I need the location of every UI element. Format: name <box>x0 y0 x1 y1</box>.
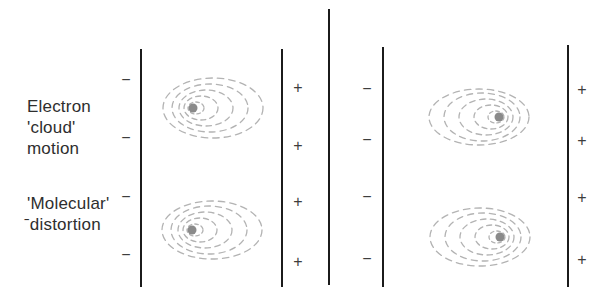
cloud-ring <box>178 212 232 248</box>
cloud-ring <box>459 99 513 135</box>
nucleus-dot <box>188 226 197 235</box>
clouds-overlay <box>0 0 610 301</box>
electron-cloud-top-right <box>429 89 529 145</box>
cloud-ring <box>460 219 514 255</box>
nucleus-dot <box>495 113 504 122</box>
electron-cloud-bottom-left <box>162 201 262 259</box>
nucleus-dot <box>496 233 505 242</box>
diagram-canvas: Electron 'cloud' motion 'Molecular' ˉdis… <box>0 0 610 301</box>
electron-cloud-bottom-right <box>430 208 530 266</box>
cloud-ring <box>179 90 233 126</box>
nucleus-dot <box>189 104 198 113</box>
electron-cloud-top-left <box>163 78 263 138</box>
